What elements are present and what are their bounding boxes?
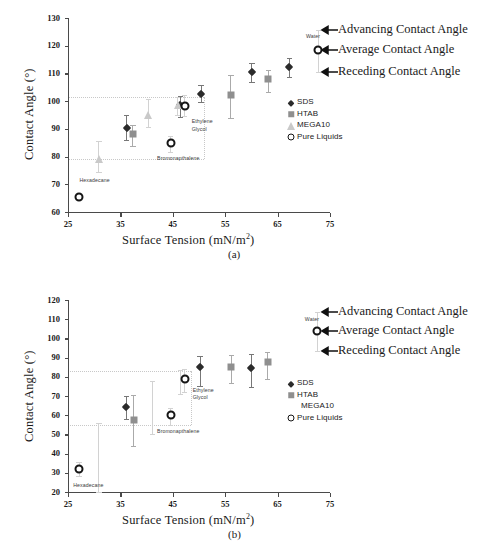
x-axis-title-text: Surface Tension (mN/m — [122, 233, 246, 247]
error-bar-cap — [146, 99, 151, 100]
data-point-pure-liquid[interactable] — [166, 139, 175, 148]
y-axis-tick — [65, 101, 69, 102]
y-axis-tick — [65, 377, 69, 378]
error-bar — [180, 370, 181, 394]
legend-label: SDS — [297, 97, 314, 106]
data-point-label: Hexadecane — [73, 482, 103, 488]
y-axis-tick-label: 100 — [32, 333, 60, 343]
data-point-label: Ethylene — [192, 118, 213, 124]
data-point-htab[interactable] — [130, 417, 137, 424]
x-axis-tick-label: 75 — [316, 499, 344, 509]
error-bar-cap — [168, 408, 173, 409]
legend-label: MEGA10 — [297, 120, 330, 129]
x-axis-tick — [278, 213, 279, 217]
error-bar-cap — [146, 127, 151, 128]
data-point-mega10[interactable] — [95, 155, 103, 163]
x-axis-line — [68, 212, 330, 213]
x-axis-tick — [173, 493, 174, 497]
annotation-arrow-icon — [316, 326, 340, 336]
error-bar-cap — [124, 419, 129, 420]
error-bar-cap — [130, 146, 135, 147]
data-point-label: Ethylene — [193, 387, 214, 393]
y-axis-tick-label: 30 — [32, 467, 60, 477]
error-bar-cap — [228, 118, 233, 119]
data-point-label: Glycol — [192, 126, 207, 132]
x-axis-title-tail: ) — [250, 513, 254, 527]
error-bar-cap — [287, 77, 292, 78]
error-bar-cap — [124, 140, 129, 141]
error-bar — [152, 381, 153, 435]
error-bar-cap — [150, 434, 155, 435]
x-axis-tick-label: 65 — [264, 499, 292, 509]
y-axis-tick — [65, 184, 69, 185]
legend-label: MEGA10 — [301, 401, 334, 410]
error-bar-cap — [175, 115, 180, 116]
x-axis-tick — [330, 493, 331, 497]
error-bar-cap — [178, 394, 183, 395]
x-axis-tick-label: 45 — [159, 499, 187, 509]
error-bar-cap — [198, 85, 203, 86]
y-axis-tick — [65, 73, 69, 74]
y-axis-tick — [65, 18, 69, 19]
error-bar-cap — [287, 58, 292, 59]
y-axis-tick — [65, 454, 69, 455]
y-axis-tick — [65, 319, 69, 320]
data-point-pure-liquid[interactable] — [75, 464, 84, 473]
x-axis-line — [68, 492, 330, 493]
legend-square-icon — [288, 392, 294, 398]
data-point-htab[interactable] — [228, 364, 235, 371]
error-bar-cap — [168, 425, 173, 426]
data-point-label: Bromonapthalene — [157, 428, 199, 434]
data-point-mega10[interactable] — [144, 111, 152, 119]
error-bar-cap — [182, 95, 187, 96]
error-bar-cap — [228, 75, 233, 76]
x-axis-tick — [68, 493, 69, 497]
error-bar-cap — [96, 172, 101, 173]
x-axis-tick — [120, 493, 121, 497]
y-axis-tick — [65, 473, 69, 474]
error-bar-cap — [229, 355, 234, 356]
data-point-htab[interactable] — [265, 75, 272, 82]
x-axis-tick — [225, 493, 226, 497]
y-axis-line — [68, 18, 69, 212]
x-axis-tick — [173, 213, 174, 217]
error-bar-cap — [76, 462, 81, 463]
error-bar-cap — [96, 492, 101, 493]
legend-label: HTAB — [297, 390, 318, 399]
data-point-pure-liquid[interactable] — [180, 375, 189, 384]
x-axis-tick-label: 35 — [106, 219, 134, 229]
error-bar-cap — [197, 356, 202, 357]
x-axis-tick-label: 65 — [264, 219, 292, 229]
data-point-htab[interactable] — [227, 92, 234, 99]
error-bar-cap — [131, 395, 136, 396]
error-bar-cap — [249, 387, 254, 388]
error-bar-cap — [175, 97, 180, 98]
annotation-arrow-icon — [316, 67, 340, 77]
y-axis-tick-label: 20 — [32, 487, 60, 497]
data-point-htab[interactable] — [129, 131, 136, 138]
legend-circle-icon — [288, 415, 295, 422]
data-point-pure-liquid[interactable] — [180, 101, 189, 110]
error-bar-cap — [182, 116, 187, 117]
data-point-htab[interactable] — [264, 359, 271, 366]
data-point-pure-liquid[interactable] — [75, 193, 84, 202]
y-axis-tick — [65, 434, 69, 435]
x-axis-tick — [225, 213, 226, 217]
error-bar-cap — [96, 141, 101, 142]
x-axis-title: Surface Tension (mN/m2) — [122, 232, 254, 248]
error-bar-cap — [266, 92, 271, 93]
annotation-arrow-icon — [316, 45, 340, 55]
error-bar-cap — [249, 63, 254, 64]
annotation-label: Advancing Contact Angle — [338, 304, 468, 319]
x-axis-tick — [278, 493, 279, 497]
error-bar-cap — [265, 379, 270, 380]
y-axis-line — [68, 300, 69, 492]
x-axis-title-tail: ) — [250, 233, 254, 247]
annotation-label: Average Contact Angle — [338, 42, 454, 57]
error-bar-cap — [124, 396, 129, 397]
data-point-pure-liquid[interactable] — [166, 410, 175, 419]
x-axis-tick-label: 55 — [211, 499, 239, 509]
y-axis-tick — [65, 358, 69, 359]
x-axis-tick-label: 35 — [106, 499, 134, 509]
error-bar-cap — [178, 370, 183, 371]
